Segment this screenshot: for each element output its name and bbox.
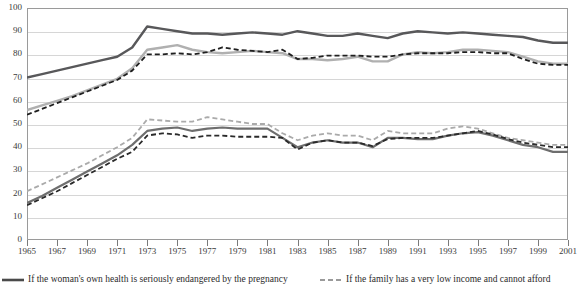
line-chart: 1009080706050403020100 19651967196919711…: [0, 0, 580, 291]
x-tick-label-2001: 2001: [553, 246, 580, 256]
y-tick-label-20: 20: [0, 189, 22, 198]
x-tick-label-1979: 1979: [222, 246, 252, 256]
y-tick-label-10: 10: [0, 212, 22, 221]
x-tick-label-1997: 1997: [493, 246, 523, 256]
x-tick-label-1971: 1971: [102, 246, 132, 256]
x-tick-label-1989: 1989: [373, 246, 403, 256]
y-tick-label-90: 90: [0, 26, 22, 35]
x-tick-label-1975: 1975: [162, 246, 192, 256]
legend-swatch-solid-line-icon: [2, 275, 24, 284]
x-tick-label-1991: 1991: [403, 246, 433, 256]
x-tick-label-1993: 1993: [433, 246, 463, 256]
x-tick-label-1981: 1981: [252, 246, 282, 256]
series-line-1: [27, 45, 568, 110]
x-tick-label-1999: 1999: [523, 246, 553, 256]
y-tick-label-50: 50: [0, 119, 22, 128]
y-tick-label-30: 30: [0, 165, 22, 174]
legend-entry-0[interactable]: If the woman's own health is seriously e…: [2, 274, 288, 284]
x-tick-label-1967: 1967: [42, 246, 72, 256]
x-tick-label-1965: 1965: [12, 246, 42, 256]
y-tick-label-80: 80: [0, 49, 22, 58]
x-tick-label-1995: 1995: [463, 246, 493, 256]
x-tick-label-1977: 1977: [192, 246, 222, 256]
legend-label-0: If the woman's own health is seriously e…: [28, 274, 288, 284]
chart-legend: If the woman's own health is seriously e…: [0, 272, 580, 290]
y-tick-label-100: 100: [0, 3, 22, 12]
legend-swatch-dashed-line-icon: [320, 275, 342, 284]
x-tick-label-1969: 1969: [72, 246, 102, 256]
x-tick-label-1983: 1983: [283, 246, 313, 256]
y-tick-label-70: 70: [0, 73, 22, 82]
series-line-4: [27, 127, 568, 202]
x-tick-label-1985: 1985: [313, 246, 343, 256]
y-tick-label-60: 60: [0, 96, 22, 105]
series-layer: [27, 8, 568, 240]
series-line-5: [27, 131, 568, 205]
y-axis-labels: 1009080706050403020100: [0, 0, 25, 250]
legend-entry-1[interactable]: If the family has a very low income and …: [320, 274, 551, 284]
series-line-3: [27, 117, 568, 191]
x-tick-label-1973: 1973: [132, 246, 162, 256]
legend-label-1: If the family has a very low income and …: [346, 274, 551, 284]
y-tick-label-40: 40: [0, 142, 22, 151]
x-axis-labels: 1965196719691971197319751977197919811983…: [0, 246, 580, 262]
x-tick-label-1987: 1987: [343, 246, 373, 256]
